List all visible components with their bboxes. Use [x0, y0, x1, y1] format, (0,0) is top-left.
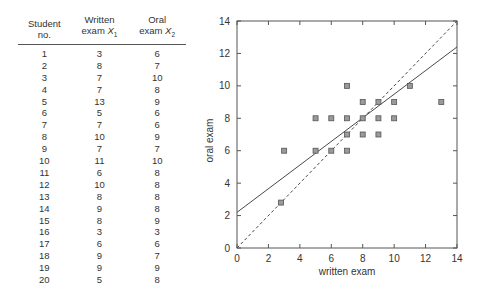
- table-cell: 10: [18, 155, 71, 167]
- table-cell: 6: [128, 44, 186, 59]
- table-cell: 3: [18, 72, 71, 84]
- data-point-marker: [345, 116, 350, 121]
- table-cell: 15: [18, 215, 71, 227]
- table-row: 1897: [18, 250, 186, 262]
- data-table-container: Studentno.Writtenexam X1Oralexam X2 1362…: [18, 14, 186, 286]
- y-tick-label: 2: [224, 210, 230, 221]
- table-row: 287: [18, 60, 186, 72]
- table-cell: 7: [71, 119, 129, 131]
- table-row: 8109: [18, 131, 186, 143]
- y-tick-label: 8: [224, 113, 230, 124]
- data-point-marker: [329, 116, 334, 121]
- data-point-marker: [392, 100, 397, 105]
- table-cell: 6: [128, 107, 186, 119]
- data-point-marker: [392, 116, 397, 121]
- table-cell: 9: [128, 215, 186, 227]
- table-cell: 8: [71, 60, 129, 72]
- table-cell: 9: [128, 131, 186, 143]
- table-row: 1498: [18, 203, 186, 215]
- scatter-chart: 0246810121402468101214written examoral e…: [200, 0, 482, 300]
- table-cell: 7: [71, 84, 129, 96]
- table-row: 656: [18, 107, 186, 119]
- table-row: 5139: [18, 96, 186, 108]
- table-cell: 7: [71, 72, 129, 84]
- table-row: 12108: [18, 179, 186, 191]
- data-point-marker: [407, 83, 412, 88]
- table-cell: 20: [18, 274, 71, 286]
- x-tick-label: 4: [297, 253, 303, 264]
- table-cell: 16: [18, 226, 71, 238]
- table-cell: 7: [71, 143, 129, 155]
- table-cell: 9: [18, 143, 71, 155]
- table-row: 1388: [18, 191, 186, 203]
- column-header: Writtenexam X1: [71, 14, 129, 44]
- table-cell: 9: [71, 203, 129, 215]
- x-tick-label: 2: [266, 253, 272, 264]
- table-cell: 12: [18, 179, 71, 191]
- data-point-marker: [329, 148, 334, 153]
- table-row: 3710: [18, 72, 186, 84]
- table-cell: 5: [18, 96, 71, 108]
- table-cell: 17: [18, 238, 71, 250]
- data-point-marker: [376, 116, 381, 121]
- x-axis-label: written exam: [318, 266, 376, 277]
- chart-canvas: 0246810121402468101214written examoral e…: [200, 0, 482, 300]
- table-cell: 6: [128, 119, 186, 131]
- x-tick-label: 0: [234, 253, 240, 264]
- x-tick-label: 12: [420, 253, 432, 264]
- table-cell: 7: [128, 60, 186, 72]
- table-cell: 8: [71, 191, 129, 203]
- table-row: 1766: [18, 238, 186, 250]
- table-cell: 19: [18, 262, 71, 274]
- table-row: 1633: [18, 226, 186, 238]
- table-cell: 10: [71, 131, 129, 143]
- table-cell: 11: [18, 167, 71, 179]
- table-header-row: Studentno.Writtenexam X1Oralexam X2: [18, 14, 186, 44]
- data-point-marker: [439, 100, 444, 105]
- data-point-marker: [360, 132, 365, 137]
- table-cell: 14: [18, 203, 71, 215]
- table-row: 977: [18, 143, 186, 155]
- data-point-marker: [345, 83, 350, 88]
- table-cell: 8: [128, 274, 186, 286]
- data-point-marker: [376, 132, 381, 137]
- table-row: 136: [18, 44, 186, 59]
- table-cell: 6: [71, 167, 129, 179]
- table-cell: 18: [18, 250, 71, 262]
- y-tick-label: 14: [219, 16, 231, 27]
- table-cell: 3: [128, 226, 186, 238]
- table-cell: 2: [18, 60, 71, 72]
- table-cell: 5: [71, 274, 129, 286]
- y-tick-label: 4: [224, 178, 230, 189]
- data-point-marker: [376, 100, 381, 105]
- table-cell: 4: [18, 84, 71, 96]
- data-point-marker: [282, 148, 287, 153]
- student-scores-table: Studentno.Writtenexam X1Oralexam X2 1362…: [18, 14, 186, 286]
- table-row: 1589: [18, 215, 186, 227]
- table-row: 478: [18, 84, 186, 96]
- table-cell: 9: [128, 96, 186, 108]
- table-row: 1168: [18, 167, 186, 179]
- table-cell: 8: [128, 191, 186, 203]
- table-cell: 11: [71, 155, 129, 167]
- y-tick-label: 10: [219, 80, 231, 91]
- table-cell: 8: [128, 84, 186, 96]
- table-cell: 7: [128, 250, 186, 262]
- table-cell: 13: [18, 191, 71, 203]
- table-cell: 6: [18, 107, 71, 119]
- table-cell: 3: [71, 44, 129, 59]
- y-axis-label: oral exam: [204, 119, 215, 163]
- y-tick-label: 12: [219, 48, 231, 59]
- data-point-marker: [360, 100, 365, 105]
- table-cell: 9: [71, 250, 129, 262]
- table-cell: 10: [128, 72, 186, 84]
- regression-line: [237, 47, 457, 212]
- table-row: 2058: [18, 274, 186, 286]
- data-point-marker: [313, 148, 318, 153]
- table-row: 101110: [18, 155, 186, 167]
- data-point-marker: [345, 148, 350, 153]
- table-row: 776: [18, 119, 186, 131]
- table-row: 1999: [18, 262, 186, 274]
- table-cell: 10: [128, 155, 186, 167]
- table-cell: 13: [71, 96, 129, 108]
